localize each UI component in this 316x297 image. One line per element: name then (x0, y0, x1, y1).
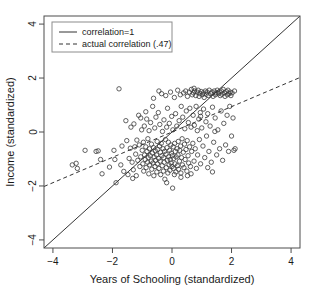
y-tick-label: 2 (28, 75, 39, 81)
y-tick-label: −2 (28, 180, 39, 192)
scatter-plot-figure: −4−2024 −4−2024 Years of Schooling (stan… (0, 0, 316, 297)
x-axis-label: Years of Schooling (standardized) (90, 273, 255, 285)
plot-canvas: −4−2024 −4−2024 Years of Schooling (stan… (0, 0, 316, 297)
y-tick-label: 4 (28, 21, 39, 27)
y-tick-label: −4 (28, 234, 39, 246)
legend-label-correlation-one: correlation=1 (82, 27, 134, 37)
x-tick-label: 4 (288, 256, 294, 267)
y-tick-label: 0 (28, 129, 39, 135)
x-tick-label: 0 (169, 256, 175, 267)
legend-label-actual-correlation: actual correlation (.47) (82, 39, 172, 49)
x-tick-label: 2 (229, 256, 235, 267)
x-tick-label: −4 (47, 256, 59, 267)
legend: correlation=1 actual correlation (.47) (52, 22, 172, 52)
x-tick-label: −2 (107, 256, 119, 267)
y-axis-label: Income (standardized) (4, 77, 16, 186)
